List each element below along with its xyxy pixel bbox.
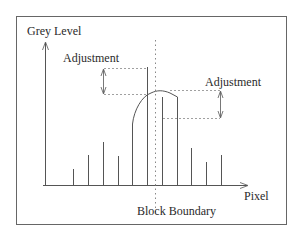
left-adjustment-arrow-icon bbox=[101, 69, 106, 94]
y-axis-label: Grey Level bbox=[27, 24, 82, 38]
block-boundary-diagram: Grey Level Adjustment Adjustment Pixel B… bbox=[0, 0, 302, 235]
right-adjustment-guides bbox=[163, 91, 220, 119]
left-adjustment-label: Adjustment bbox=[63, 51, 120, 65]
left-adjustment-guides bbox=[104, 69, 147, 95]
y-axis bbox=[43, 42, 49, 186]
right-adjustment-arrow-icon bbox=[218, 91, 223, 118]
right-adjustment-label: Adjustment bbox=[205, 75, 262, 89]
x-axis-label: Pixel bbox=[244, 189, 269, 203]
block-boundary-label: Block Boundary bbox=[137, 204, 216, 218]
bars-right bbox=[163, 97, 222, 185]
bars-left bbox=[74, 67, 148, 185]
